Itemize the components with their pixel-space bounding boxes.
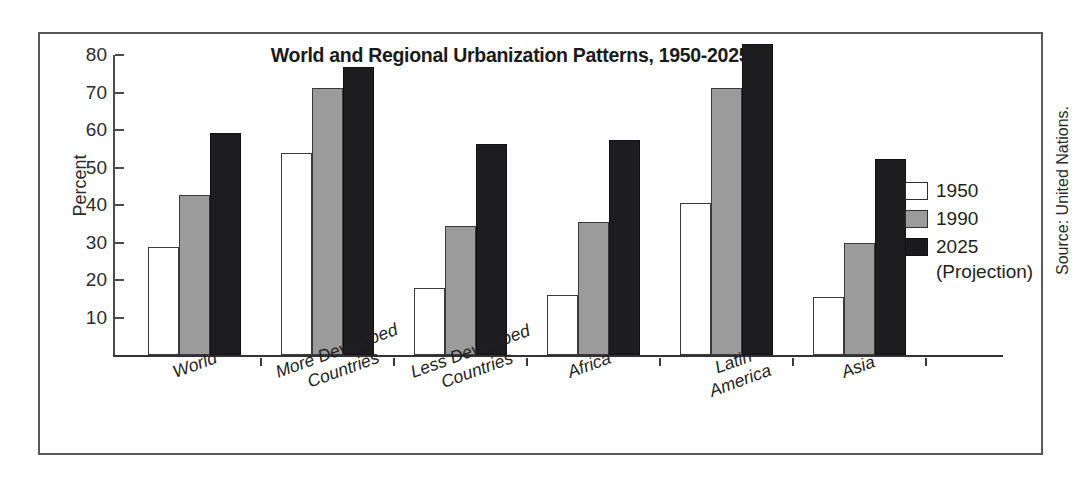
bar-1990-more-developed-countries xyxy=(312,88,343,355)
y-tick-label: 80 xyxy=(86,44,107,66)
bar-1950-asia xyxy=(813,297,844,355)
y-tick-label: 70 xyxy=(86,82,107,104)
y-tick-label: 50 xyxy=(86,157,107,179)
x-tick-mark xyxy=(792,358,794,366)
y-tick-mark xyxy=(115,54,124,56)
legend-label-2025: 2025 xyxy=(936,236,978,258)
y-tick-mark xyxy=(115,279,124,281)
x-tick-mark xyxy=(260,358,262,366)
source-note: Source: United Nations. xyxy=(1054,106,1072,275)
y-tick-label: 60 xyxy=(86,119,107,141)
plot-area: Percent 1020304050607080 xyxy=(113,55,1003,357)
bar-1990-latin-america xyxy=(711,88,742,355)
bar-2025-latin-america xyxy=(742,44,773,355)
bar-1950-world xyxy=(148,247,179,355)
bar-1990-asia xyxy=(844,243,875,356)
y-tick-mark xyxy=(115,129,124,131)
legend-label-1950: 1950 xyxy=(936,180,978,202)
y-tick-mark xyxy=(115,242,124,244)
bar-1950-less-developed-countries xyxy=(414,288,445,356)
y-tick-mark xyxy=(115,92,124,94)
bar-2025-more-developed-countries xyxy=(343,67,374,355)
bar-2025-world xyxy=(210,133,241,355)
y-tick-label: 10 xyxy=(86,307,107,329)
legend-projection-note: (Projection) xyxy=(936,261,1035,283)
bar-2025-less-developed-countries xyxy=(476,144,507,355)
x-tick-mark xyxy=(659,358,661,366)
y-tick-mark xyxy=(115,167,124,169)
x-tick-mark xyxy=(925,358,927,366)
legend-swatch-2025 xyxy=(905,238,928,256)
bar-2025-asia xyxy=(875,159,906,355)
y-tick-label: 30 xyxy=(86,232,107,254)
bar-1990-less-developed-countries xyxy=(445,226,476,355)
legend-swatch-1990 xyxy=(905,210,928,228)
chart-legend: 195019902025 (Projection) xyxy=(905,180,1035,283)
legend-item-1950: 1950 xyxy=(905,180,1035,204)
y-axis-line xyxy=(113,55,115,357)
legend-item-1990: 1990 xyxy=(905,208,1035,232)
legend-label-1990: 1990 xyxy=(936,208,978,230)
bar-1950-africa xyxy=(547,295,578,355)
legend-item-2025: 2025 xyxy=(905,236,1035,260)
bar-2025-africa xyxy=(609,140,640,355)
y-tick-mark xyxy=(115,317,124,319)
bar-1990-africa xyxy=(578,222,609,355)
y-tick-mark xyxy=(115,204,124,206)
y-tick-label: 20 xyxy=(86,269,107,291)
bar-1950-latin-america xyxy=(680,203,711,355)
chart-frame: World and Regional Urbanization Patterns… xyxy=(38,32,1043,455)
bar-1950-more-developed-countries xyxy=(281,153,312,355)
y-tick-label: 40 xyxy=(86,194,107,216)
legend-swatch-1950 xyxy=(905,182,928,200)
bar-1990-world xyxy=(179,195,210,355)
